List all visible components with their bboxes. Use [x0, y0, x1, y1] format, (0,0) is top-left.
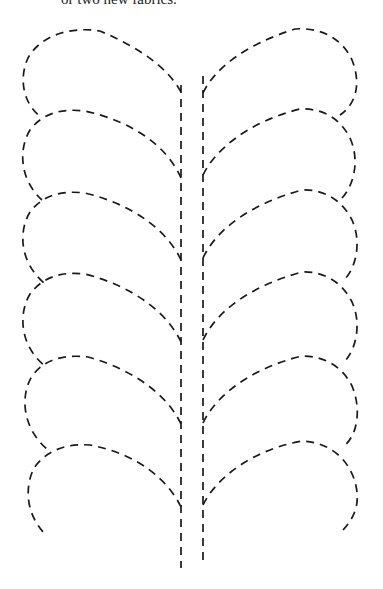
left-leaf-3 [23, 192, 181, 283]
left-leaf-2 [23, 110, 181, 200]
feather-pattern [0, 0, 383, 589]
left-leaf-5 [25, 356, 181, 450]
right-leaf-3 [203, 190, 357, 280]
right-leaf-2 [203, 109, 355, 198]
left-leaf-1 [23, 30, 181, 118]
left-leaf-4 [23, 273, 181, 366]
left-leaf-6 [28, 445, 181, 536]
right-leaf-5 [203, 356, 357, 446]
right-feathers [203, 29, 357, 530]
right-leaf-6 [203, 441, 357, 530]
right-leaf-1 [203, 29, 357, 115]
left-feathers [23, 30, 181, 536]
right-leaf-4 [203, 272, 357, 362]
